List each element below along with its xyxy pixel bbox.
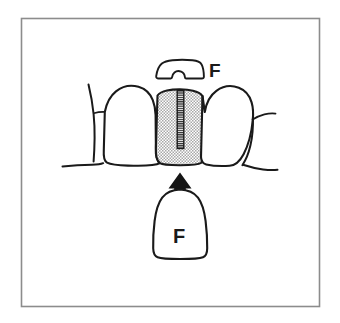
appliance-label-f: F bbox=[173, 225, 185, 247]
bracket-appliance bbox=[156, 60, 204, 79]
bracket-label-f: F bbox=[209, 60, 221, 81]
left-incisor bbox=[104, 86, 160, 166]
vertical-hatched-slot bbox=[177, 91, 184, 149]
central-incisor-shaded bbox=[156, 89, 205, 165]
dental-diagram-figure: F bbox=[0, 0, 340, 323]
diagram-canvas: F bbox=[0, 0, 340, 323]
left-partial-tooth bbox=[89, 85, 106, 162]
right-incisor bbox=[201, 86, 253, 166]
